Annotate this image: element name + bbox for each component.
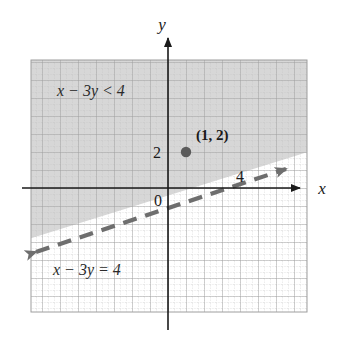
plotted-point: [181, 147, 191, 157]
x-axis-label: x: [317, 179, 326, 198]
boundary-line-label: x − 3y = 4: [52, 261, 121, 279]
coordinate-plane-svg: y x 0 2 4 (1, 2) x − 3y < 4 x − 3y = 4: [0, 0, 348, 342]
point-label: (1, 2): [196, 127, 229, 144]
inequality-label: x − 3y < 4: [56, 82, 125, 100]
origin-label: 0: [154, 192, 162, 209]
graph-figure: y x 0 2 4 (1, 2) x − 3y < 4 x − 3y = 4: [0, 0, 348, 342]
y-axis-label: y: [156, 15, 166, 34]
y-tick-label-2: 2: [153, 144, 161, 161]
x-tick-label-4: 4: [236, 168, 244, 185]
